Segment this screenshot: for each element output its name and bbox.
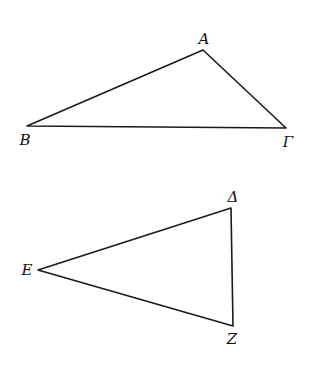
triangle-dez: Δ E Z (21, 188, 239, 348)
vertex-label-delta: Δ (227, 188, 239, 206)
triangle-abg: A B Γ (18, 30, 293, 151)
vertex-label-z: Z (226, 330, 238, 348)
triangle-dez-outline (38, 208, 233, 326)
vertex-label-b: B (18, 131, 30, 149)
vertex-label-gamma: Γ (282, 133, 294, 151)
triangle-abg-outline (27, 50, 286, 128)
vertex-label-a: A (197, 30, 210, 48)
geometry-diagram: A B Γ Δ E Z (0, 0, 316, 376)
vertex-label-e: E (21, 261, 33, 279)
